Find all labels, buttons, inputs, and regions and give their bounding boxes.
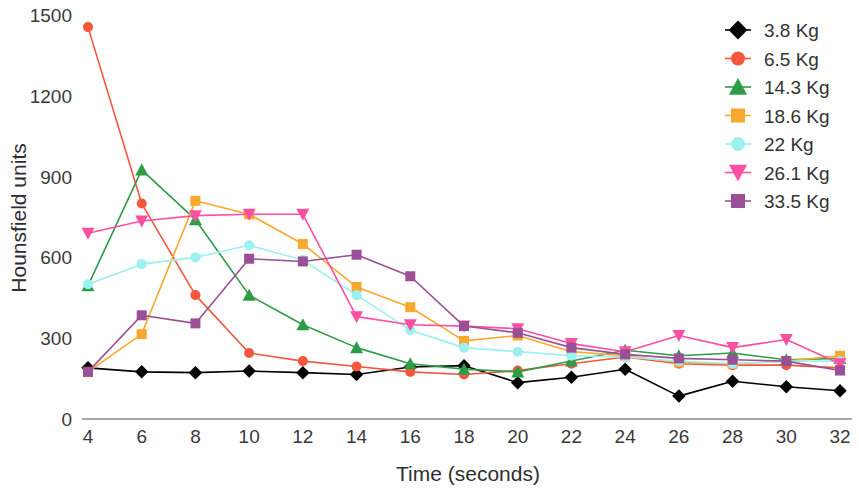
data-point-marker xyxy=(835,366,845,376)
x-tick-label: 32 xyxy=(829,426,850,447)
y-tick-label: 600 xyxy=(40,247,72,268)
x-tick-label: 22 xyxy=(561,426,582,447)
x-axis-tick-labels: 468101214161820222426283032 xyxy=(83,426,851,447)
legend-label: 33.5 Kg xyxy=(764,191,830,212)
data-point-marker xyxy=(513,347,523,357)
data-point-marker xyxy=(296,366,310,380)
chart-page: 030060090012001500 468101214161820222426… xyxy=(0,0,859,492)
x-tick-label: 6 xyxy=(136,426,147,447)
legend-marker-diamond-icon xyxy=(729,21,748,40)
legend-item[interactable]: 14.3 Kg xyxy=(725,77,830,98)
data-point-marker xyxy=(618,362,632,376)
x-tick-label: 28 xyxy=(722,426,743,447)
y-axis-tick-labels: 030060090012001500 xyxy=(30,5,72,430)
legend-item[interactable]: 3.8 Kg xyxy=(725,20,819,41)
data-point-marker xyxy=(565,371,579,385)
data-point-marker xyxy=(244,240,254,250)
x-tick-label: 18 xyxy=(453,426,474,447)
series-33-5-kg xyxy=(83,250,845,377)
y-tick-label: 300 xyxy=(40,328,72,349)
data-point-marker xyxy=(728,355,738,365)
data-point-marker xyxy=(352,290,362,300)
data-point-marker xyxy=(137,310,147,320)
x-tick-label: 20 xyxy=(507,426,528,447)
data-point-marker xyxy=(459,321,469,331)
data-point-marker xyxy=(298,356,308,366)
data-point-marker xyxy=(244,254,254,264)
series-layer xyxy=(81,22,847,403)
legend-item[interactable]: 26.1 Kg xyxy=(725,163,830,184)
y-axis-title: Hounsfield units xyxy=(7,143,30,292)
x-tick-label: 8 xyxy=(190,426,201,447)
data-point-marker xyxy=(137,199,147,209)
legend-label: 6.5 Kg xyxy=(764,49,819,70)
data-point-marker xyxy=(135,163,148,175)
data-point-marker xyxy=(83,367,93,377)
legend-label: 26.1 Kg xyxy=(764,163,830,184)
data-point-marker xyxy=(137,259,147,269)
y-tick-label: 0 xyxy=(61,409,72,430)
legend-item[interactable]: 18.6 Kg xyxy=(725,106,830,127)
data-point-marker xyxy=(513,328,523,338)
x-tick-label: 12 xyxy=(292,426,313,447)
x-tick-label: 30 xyxy=(776,426,797,447)
legend-marker-square-icon xyxy=(731,109,745,123)
data-point-marker xyxy=(350,341,363,353)
data-point-marker xyxy=(726,342,739,354)
data-point-marker xyxy=(190,318,200,328)
data-point-marker xyxy=(352,361,362,371)
data-point-marker xyxy=(511,376,525,390)
data-point-marker xyxy=(405,302,415,312)
series-line xyxy=(88,255,840,372)
data-point-marker xyxy=(674,353,684,363)
legend-marker-circle-icon xyxy=(731,137,745,151)
x-axis-title: Time (seconds) xyxy=(396,462,540,485)
data-point-marker xyxy=(726,375,740,389)
data-point-marker xyxy=(459,343,469,353)
legend-marker-square-icon xyxy=(731,194,745,208)
data-point-marker xyxy=(833,384,847,398)
data-point-marker xyxy=(82,228,95,240)
data-point-marker xyxy=(190,290,200,300)
data-point-marker xyxy=(243,289,256,301)
data-point-marker xyxy=(404,357,417,369)
data-point-marker xyxy=(244,348,254,358)
data-point-marker xyxy=(566,343,576,353)
data-point-marker xyxy=(296,318,309,330)
legend-item[interactable]: 6.5 Kg xyxy=(725,49,819,70)
chart-legend: 3.8 Kg6.5 Kg14.3 Kg18.6 Kg22 Kg26.1 Kg33… xyxy=(725,20,830,212)
y-tick-label: 900 xyxy=(40,167,72,188)
legend-label: 18.6 Kg xyxy=(764,106,830,127)
data-point-marker xyxy=(352,250,362,260)
x-tick-label: 26 xyxy=(668,426,689,447)
line-chart: 030060090012001500 468101214161820222426… xyxy=(0,0,859,492)
data-point-marker xyxy=(135,365,149,379)
data-point-marker xyxy=(189,366,203,380)
legend-label: 14.3 Kg xyxy=(764,77,830,98)
legend-item[interactable]: 33.5 Kg xyxy=(725,191,830,212)
y-tick-label: 1200 xyxy=(30,86,72,107)
data-point-marker xyxy=(190,252,200,262)
data-point-marker xyxy=(405,271,415,281)
data-point-marker xyxy=(620,349,630,359)
data-point-marker xyxy=(298,239,308,249)
data-point-marker xyxy=(83,22,93,32)
data-point-marker xyxy=(780,380,794,394)
data-point-marker xyxy=(298,256,308,266)
x-tick-label: 24 xyxy=(615,426,637,447)
data-point-marker xyxy=(83,279,93,289)
legend-item[interactable]: 22 Kg xyxy=(725,134,814,155)
data-point-marker xyxy=(190,196,200,206)
x-tick-label: 4 xyxy=(83,426,94,447)
legend-label: 3.8 Kg xyxy=(764,20,819,41)
legend-label: 22 Kg xyxy=(764,134,814,155)
data-point-marker xyxy=(137,329,147,339)
data-point-marker xyxy=(242,364,256,378)
data-point-marker xyxy=(781,356,791,366)
data-point-marker xyxy=(672,389,686,403)
y-tick-label: 1500 xyxy=(30,5,72,26)
x-tick-label: 14 xyxy=(346,426,368,447)
x-tick-label: 16 xyxy=(400,426,421,447)
legend-marker-circle-icon xyxy=(731,52,745,66)
x-tick-label: 10 xyxy=(239,426,260,447)
